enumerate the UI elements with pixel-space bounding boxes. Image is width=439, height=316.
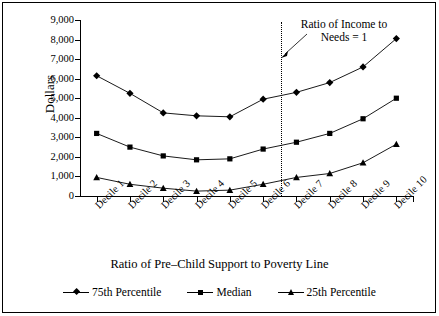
triangle-icon <box>288 289 294 295</box>
series-line <box>97 39 397 117</box>
diamond-icon <box>72 288 79 295</box>
data-point <box>194 157 199 162</box>
legend-marker-triangle-icon <box>278 292 304 293</box>
data-point <box>160 109 167 116</box>
data-point <box>161 153 166 158</box>
data-point <box>127 145 132 150</box>
legend-label: 25th Percentile <box>307 286 376 298</box>
legend-item[interactable]: 25th Percentile <box>278 286 376 298</box>
data-point <box>93 174 100 180</box>
chart-legend: 75th PercentileMedian25th Percentile <box>0 286 439 298</box>
data-point <box>226 113 233 120</box>
legend-item[interactable]: Median <box>187 286 251 298</box>
legend-label: Median <box>216 286 251 298</box>
data-point <box>193 112 200 119</box>
series-diamond <box>93 35 400 120</box>
legend-marker-square-icon <box>187 292 213 293</box>
data-point <box>294 140 299 145</box>
data-point <box>227 156 232 161</box>
data-point <box>261 146 266 151</box>
x-axis-title: Ratio of Pre–Child Support to Poverty Li… <box>0 257 439 272</box>
data-point <box>293 89 300 96</box>
data-point <box>360 159 367 165</box>
series-line <box>97 144 397 191</box>
series-line <box>97 98 397 160</box>
legend-marker-diamond-icon <box>63 292 89 293</box>
legend-item[interactable]: 75th Percentile <box>63 286 161 298</box>
data-point <box>326 79 333 86</box>
legend-label: 75th Percentile <box>92 286 161 298</box>
data-point <box>94 131 99 136</box>
data-point <box>393 141 400 147</box>
annotation-arrow-head <box>281 51 288 58</box>
data-point <box>260 96 267 103</box>
chart-figure: Dollars Ratio of Income to Needs = 1 01,… <box>0 0 439 316</box>
annotation-leader-line <box>285 34 307 54</box>
data-point <box>394 96 399 101</box>
series-square <box>94 96 399 163</box>
square-icon <box>198 290 203 295</box>
series-triangle <box>93 141 400 194</box>
data-point <box>327 131 332 136</box>
data-point <box>93 72 100 79</box>
data-point <box>126 90 133 97</box>
data-point <box>360 116 365 121</box>
